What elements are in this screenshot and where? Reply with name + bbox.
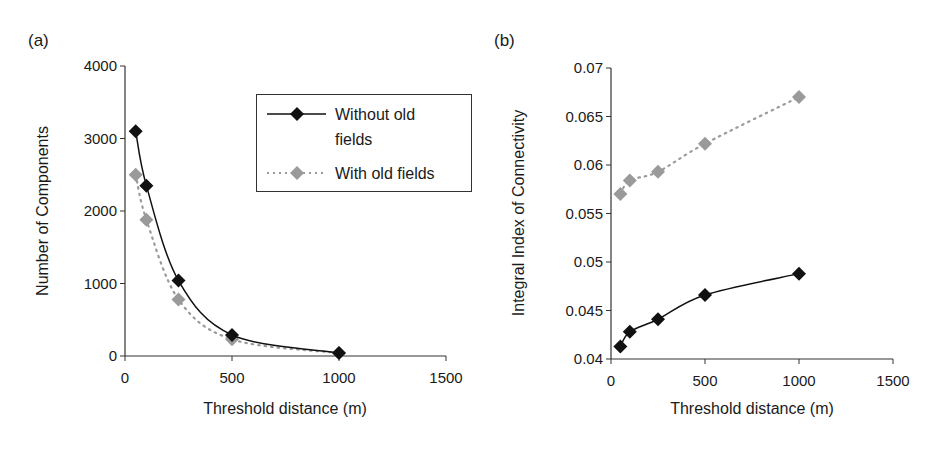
diamond-marker-icon xyxy=(332,346,346,360)
diamond-marker-icon xyxy=(792,90,806,104)
diamond-marker-icon xyxy=(792,267,806,281)
y-tick-labels-a: 01000200030004000 xyxy=(84,57,117,364)
diamond-marker-icon xyxy=(139,213,153,227)
chart-panel-b: (b) 0.040.0450.050.0550.060.0650.07 0500… xyxy=(494,31,910,417)
x-axis-title-a: Threshold distance (m) xyxy=(203,400,367,417)
axes-b xyxy=(606,68,893,364)
x-axis-title-b: Threshold distance (m) xyxy=(670,400,834,417)
diamond-marker-icon xyxy=(651,165,665,179)
diamond-marker-icon xyxy=(139,179,153,193)
diamond-marker-icon xyxy=(613,339,627,353)
panel-label-a: (a) xyxy=(28,31,49,50)
x-tick-label: 0 xyxy=(121,369,129,386)
series-b xyxy=(613,90,806,353)
y-tick-label: 0.055 xyxy=(565,205,603,222)
diamond-marker-icon xyxy=(698,137,712,151)
x-tick-label: 500 xyxy=(219,369,244,386)
y-tick-label: 3000 xyxy=(84,130,117,147)
x-tick-labels-b: 050010001500 xyxy=(607,372,910,389)
legend: Without old fields With old fields xyxy=(257,95,472,192)
y-tick-label: 0.06 xyxy=(574,156,603,173)
legend-label-with: With old fields xyxy=(335,165,435,182)
y-tick-label: 0.05 xyxy=(574,253,603,270)
figure: (a) 01000200030004000 050010001500 Thres… xyxy=(0,0,942,453)
panel-label-b: (b) xyxy=(494,31,515,50)
series-line-without-old-fields xyxy=(620,274,799,347)
y-tick-labels-b: 0.040.0450.050.0550.060.0650.07 xyxy=(565,59,603,367)
y-tick-label: 0.04 xyxy=(574,350,603,367)
y-tick-label: 0.045 xyxy=(565,302,603,319)
diamond-marker-icon xyxy=(172,274,186,288)
chart-panel-a: (a) 01000200030004000 050010001500 Thres… xyxy=(28,31,472,417)
y-tick-label: 0.065 xyxy=(565,108,603,125)
diamond-marker-icon xyxy=(613,187,627,201)
y-tick-label: 4000 xyxy=(84,57,117,74)
diamond-marker-icon xyxy=(698,288,712,302)
x-tick-label: 0 xyxy=(607,372,615,389)
legend-label-without-line2: fields xyxy=(335,131,372,148)
x-tick-label: 1000 xyxy=(782,372,815,389)
x-tick-label: 500 xyxy=(692,372,717,389)
x-tick-label: 1500 xyxy=(429,369,462,386)
y-tick-label: 0.07 xyxy=(574,59,603,76)
y-tick-label: 2000 xyxy=(84,202,117,219)
y-axis-title-a: Number of Components xyxy=(34,126,51,296)
x-tick-label: 1000 xyxy=(322,369,355,386)
diamond-marker-icon xyxy=(172,292,186,306)
legend-label-without-line1: Without old xyxy=(335,106,415,123)
x-tick-label: 1500 xyxy=(876,372,909,389)
y-tick-label: 0 xyxy=(109,347,117,364)
series-line-with-old-fields xyxy=(136,175,339,353)
diamond-marker-icon xyxy=(651,312,665,326)
y-tick-label: 1000 xyxy=(84,275,117,292)
diamond-marker-icon xyxy=(129,168,143,182)
diamond-marker-icon xyxy=(129,124,143,138)
diamond-marker-icon xyxy=(623,174,637,188)
y-axis-title-b: Integral Index of Connectivity xyxy=(510,110,527,316)
x-tick-labels-a: 050010001500 xyxy=(121,369,463,386)
